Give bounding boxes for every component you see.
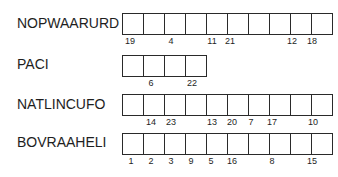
cell-number: 3	[168, 156, 173, 166]
cell-number: 20	[227, 117, 237, 127]
cell-number: 21	[225, 36, 235, 46]
letter-cell[interactable]	[270, 13, 291, 35]
cell-number: 19	[125, 36, 135, 46]
letter-cell[interactable]	[312, 133, 333, 155]
letter-cell[interactable]	[207, 133, 228, 155]
cell-number: 15	[307, 156, 317, 166]
letter-cell[interactable]	[165, 13, 186, 35]
cell-number: 9	[188, 156, 193, 166]
letter-cell[interactable]	[249, 94, 270, 116]
letter-cell[interactable]	[186, 55, 207, 77]
row-label: PACI	[17, 56, 49, 72]
letter-cell[interactable]	[123, 133, 144, 155]
cell-strip	[122, 13, 333, 35]
letter-cell[interactable]	[207, 94, 228, 116]
letter-cell[interactable]	[270, 133, 291, 155]
cell-number: 2	[148, 156, 153, 166]
cell-number: 13	[207, 117, 217, 127]
cell-number: 6	[148, 78, 153, 88]
letter-cell[interactable]	[228, 13, 249, 35]
cell-number: 17	[267, 117, 277, 127]
letter-cell[interactable]	[186, 94, 207, 116]
cell-number: 4	[168, 36, 173, 46]
letter-cell[interactable]	[228, 133, 249, 155]
letter-cell[interactable]	[165, 55, 186, 77]
letter-cell[interactable]	[144, 133, 165, 155]
cell-number: 11	[207, 36, 216, 46]
letter-cell[interactable]	[312, 13, 333, 35]
row-label: NOPWAARURD	[17, 15, 119, 31]
letter-cell[interactable]	[123, 13, 144, 35]
row-label: BOVRAAHELI	[17, 134, 106, 150]
letter-cell[interactable]	[144, 55, 165, 77]
letter-cell[interactable]	[312, 94, 333, 116]
cell-number: 7	[248, 117, 253, 127]
cell-number: 16	[227, 156, 237, 166]
letter-cell[interactable]	[291, 94, 312, 116]
letter-cell[interactable]	[249, 13, 270, 35]
cell-number: 23	[166, 117, 176, 127]
cell-number: 14	[146, 117, 156, 127]
letter-cell[interactable]	[228, 94, 249, 116]
letter-cell[interactable]	[291, 133, 312, 155]
cell-number: 18	[307, 36, 317, 46]
cell-number: 10	[308, 117, 318, 127]
cell-number: 1	[128, 156, 133, 166]
cell-strip	[122, 94, 333, 116]
letter-cell[interactable]	[165, 94, 186, 116]
letter-cell[interactable]	[270, 94, 291, 116]
cell-number: 5	[208, 156, 213, 166]
letter-cell[interactable]	[123, 55, 144, 77]
letter-cell[interactable]	[165, 133, 186, 155]
letter-cell[interactable]	[123, 94, 144, 116]
cell-number: 8	[269, 156, 274, 166]
letter-cell[interactable]	[186, 13, 207, 35]
cell-strip	[122, 55, 207, 77]
row-label: NATLINCUFO	[17, 96, 105, 112]
cell-strip	[122, 133, 333, 155]
letter-cell[interactable]	[207, 13, 228, 35]
letter-cell[interactable]	[144, 13, 165, 35]
letter-cell[interactable]	[249, 133, 270, 155]
cell-number: 12	[287, 36, 297, 46]
cell-number: 22	[187, 78, 197, 88]
letter-cell[interactable]	[144, 94, 165, 116]
letter-cell[interactable]	[291, 13, 312, 35]
letter-cell[interactable]	[186, 133, 207, 155]
